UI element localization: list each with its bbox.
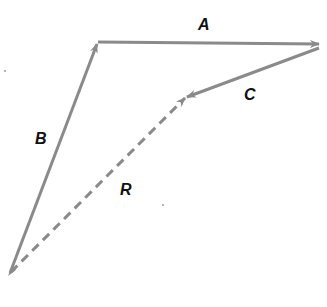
label-c: C bbox=[244, 87, 256, 103]
label-r: R bbox=[120, 182, 132, 198]
vector-r-dashed-arrow bbox=[11, 98, 185, 272]
stray-dot bbox=[162, 204, 164, 206]
label-b: B bbox=[35, 131, 47, 147]
label-a: A bbox=[198, 17, 210, 33]
vector-canvas bbox=[0, 0, 327, 307]
vector-diagram: A B C R bbox=[0, 0, 327, 307]
vector-a-arrow bbox=[98, 42, 319, 44]
vector-b-arrow bbox=[10, 44, 97, 273]
stray-dot bbox=[4, 70, 6, 72]
